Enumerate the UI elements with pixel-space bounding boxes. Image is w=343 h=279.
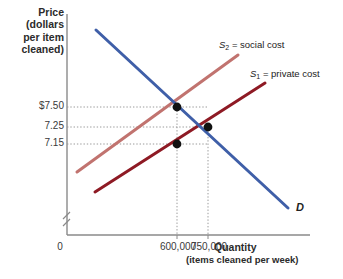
y-axis-title-line-1: Price [6,6,64,18]
curve-s2-social-cost [77,55,238,172]
curve-d-demand [96,30,288,208]
curve-s1-private-cost [95,83,265,192]
y-tick-label-725: 7.25 [20,120,64,132]
curve-label-s2-suffix: = social cost [229,39,284,50]
y-tick-label-715: 7.15 [20,137,64,149]
x-axis-subtitle: (items cleaned per week) [186,254,298,265]
curve-label-s1-suffix: = private cost [260,68,319,79]
curve-label-s2: S2 = social cost [219,39,284,52]
marker-private-cost-at-social-quantity [173,140,182,149]
curve-label-d: D [296,201,304,214]
economics-externality-chart: Price (dollars per item cleaned) $7.50 7… [0,0,343,279]
y-axis-title: Price (dollars per item cleaned) [6,6,64,56]
curve-label-s1: S1 = private cost [250,68,320,81]
y-tick-label-750: $7.50 [20,100,64,112]
y-axis-title-line-3: per item [6,31,64,43]
marker-market-equilibrium [204,123,213,132]
x-axis-title: Quantity [214,241,257,253]
y-axis-title-line-4: cleaned) [6,43,64,55]
y-axis-title-line-2: (dollars [6,18,64,30]
marker-social-optimum [173,103,182,112]
x-tick-label-0: 0 [50,241,70,253]
